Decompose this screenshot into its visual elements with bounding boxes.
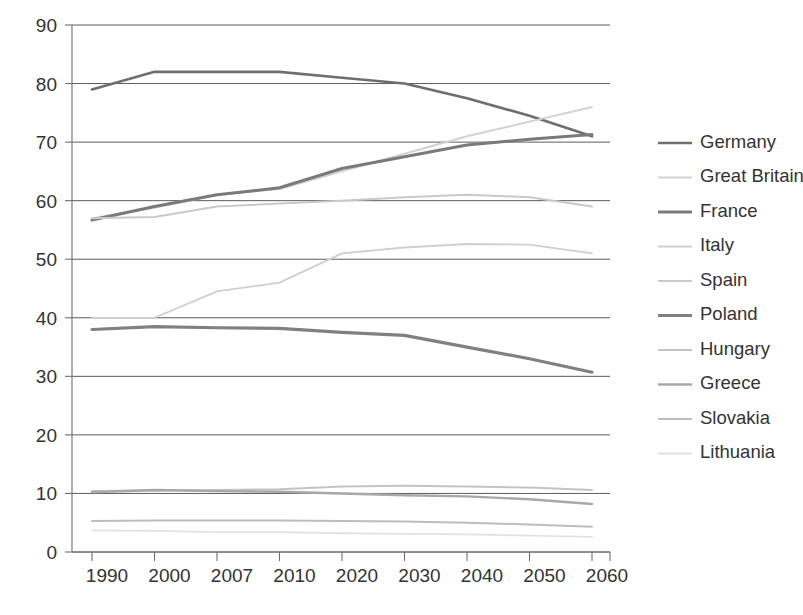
legend-item-lithuania[interactable]: Lithuania (658, 441, 776, 462)
x-axis-tick-label: 2000 (148, 565, 190, 586)
x-axis-tick-label: 2007 (211, 565, 253, 586)
legend-item-great-britain[interactable]: Great Britain (658, 165, 803, 186)
y-axis-tick-label: 60 (36, 191, 57, 212)
series-line-poland (92, 327, 592, 373)
y-axis-tick-label: 40 (36, 308, 57, 329)
y-axis-tick-labels: 0102030405060708090 (36, 15, 57, 563)
legend-label: Lithuania (700, 441, 776, 462)
series-line-italy (92, 244, 592, 318)
y-axis-tick-label: 10 (36, 483, 57, 504)
legend-item-italy[interactable]: Italy (658, 234, 735, 255)
line-chart: 0102030405060708090 19902000200720102020… (0, 0, 803, 615)
legend-item-germany[interactable]: Germany (658, 131, 777, 152)
x-axis-tick-label: 2030 (398, 565, 440, 586)
legend-item-slovakia[interactable]: Slovakia (658, 407, 771, 428)
y-axis-tick-label: 50 (36, 249, 57, 270)
series-line-france (92, 134, 592, 219)
y-axis-tick-label: 30 (36, 366, 57, 387)
y-axis-tick-label: 20 (36, 425, 57, 446)
x-axis-tick-labels: 199020002007201020202030204020502060 (86, 565, 628, 586)
y-axis-tick-label: 70 (36, 132, 57, 153)
series-line-spain (92, 195, 592, 218)
legend-label: Greece (700, 372, 761, 393)
legend-label: Poland (700, 303, 758, 324)
series-line-greece (92, 490, 592, 504)
x-axis-tick-label: 2040 (461, 565, 503, 586)
y-axis-tick-label: 0 (46, 542, 57, 563)
y-axis-tick-label: 80 (36, 74, 57, 95)
x-axis-tick-label: 1990 (86, 565, 128, 586)
legend-label: Great Britain (700, 165, 803, 186)
x-axis-tick-label: 2010 (273, 565, 315, 586)
legend-item-greece[interactable]: Greece (658, 372, 761, 393)
legend-label: France (700, 200, 758, 221)
legend-label: Spain (700, 269, 747, 290)
legend-item-hungary[interactable]: Hungary (658, 338, 771, 359)
x-axis-tick-label: 2060 (586, 565, 628, 586)
legend-label: Germany (700, 131, 777, 152)
x-axis-tick-label: 2020 (336, 565, 378, 586)
y-axis-tick-label: 90 (36, 15, 57, 36)
series-line-slovakia (92, 520, 592, 526)
legend-label: Slovakia (700, 407, 771, 428)
data-series (92, 72, 592, 537)
legend-label: Hungary (700, 338, 771, 359)
legend-item-france[interactable]: France (658, 200, 758, 221)
series-line-germany (92, 72, 592, 136)
gridlines (72, 25, 610, 552)
legend-label: Italy (700, 234, 735, 255)
series-line-lithuania (92, 530, 592, 536)
axes (65, 25, 610, 561)
legend-item-spain[interactable]: Spain (658, 269, 747, 290)
x-axis-tick-label: 2050 (523, 565, 565, 586)
legend-item-poland[interactable]: Poland (658, 303, 758, 324)
legend: GermanyGreat BritainFranceItalySpainPola… (658, 131, 803, 463)
chart-canvas: 0102030405060708090 19902000200720102020… (0, 0, 803, 615)
